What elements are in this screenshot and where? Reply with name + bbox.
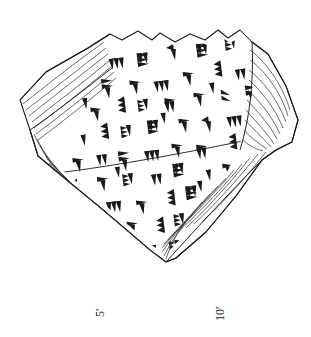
figure-root: 5' 10' <box>0 0 311 337</box>
line-number-label-5: 5' <box>87 301 113 325</box>
tablet-drawing <box>0 0 311 337</box>
line-number-label-10: 10' <box>206 300 234 328</box>
